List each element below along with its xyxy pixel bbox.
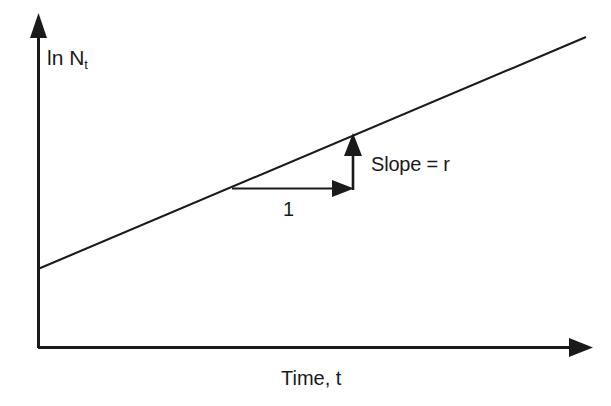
growth-line <box>38 37 586 269</box>
y-axis-label: ln Nt <box>47 47 88 68</box>
y-axis-label-main: ln N <box>47 46 84 69</box>
run-annotation-label: 1 <box>283 199 294 219</box>
x-axis-label: Time, t <box>281 368 341 388</box>
y-axis-arrowhead-icon <box>30 13 47 38</box>
semi-log-growth-figure: ln Nt Time, t Slope = r 1 <box>0 0 611 406</box>
y-axis-label-subscript: t <box>84 57 88 72</box>
rise-arrowhead-icon <box>344 133 362 156</box>
x-axis-arrowhead-icon <box>569 338 593 357</box>
run-arrowhead-icon <box>332 180 354 197</box>
plot-canvas <box>0 0 611 406</box>
slope-annotation-label: Slope = r <box>371 154 450 174</box>
